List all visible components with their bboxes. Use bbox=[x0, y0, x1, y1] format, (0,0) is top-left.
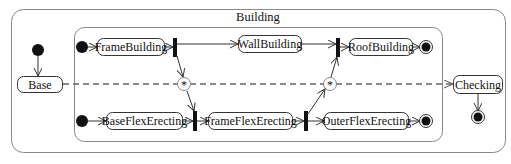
transition-sync-left-to-join bbox=[187, 91, 194, 111]
state-roof-building[interactable]: RoofBuilding bbox=[348, 39, 414, 56]
final-state-bottom[interactable] bbox=[420, 115, 433, 128]
state-frame-building[interactable]: FrameBuilding bbox=[95, 39, 168, 56]
join-bar-1[interactable] bbox=[336, 38, 340, 57]
transition-fork-to-sync-right bbox=[308, 89, 325, 114]
transition-fork-to-sync-left bbox=[177, 56, 183, 77]
initial-state-outer[interactable] bbox=[32, 44, 44, 56]
final-state-top[interactable] bbox=[420, 41, 433, 54]
sync-state-left[interactable]: * bbox=[178, 78, 191, 93]
state-frame-flex-erecting-label: FrameFlexErecting bbox=[204, 114, 297, 128]
sync-state-right[interactable]: * bbox=[324, 78, 337, 93]
initial-state-top[interactable] bbox=[76, 41, 88, 53]
state-diagram: Building Base FrameBuilding WallBuilding… bbox=[0, 0, 511, 164]
state-checking-label: Checking bbox=[455, 78, 501, 92]
state-frame-flex-erecting[interactable]: FrameFlexErecting bbox=[204, 113, 297, 130]
building-title: Building bbox=[236, 10, 281, 24]
state-outer-flex-erecting-label: OuterFlexErecting bbox=[322, 114, 411, 128]
state-checking[interactable]: Checking bbox=[454, 76, 503, 94]
state-frame-building-label: FrameBuilding bbox=[95, 40, 168, 54]
state-base-flex-erecting-label: BaseFlexErecting bbox=[102, 114, 187, 128]
state-outer-flex-erecting[interactable]: OuterFlexErecting bbox=[322, 113, 411, 130]
fork-bar-2[interactable] bbox=[304, 111, 308, 131]
state-roof-building-label: RoofBuilding bbox=[348, 40, 414, 54]
join-bar-2[interactable] bbox=[193, 111, 197, 131]
initial-state-bottom[interactable] bbox=[76, 115, 88, 127]
building-container-border bbox=[12, 10, 506, 153]
final-state-checking[interactable] bbox=[472, 111, 485, 124]
state-base[interactable]: Base bbox=[18, 77, 63, 93]
building-composite-state[interactable]: Building bbox=[12, 10, 506, 153]
state-base-label: Base bbox=[28, 78, 51, 92]
sync-right-label: * bbox=[327, 78, 333, 92]
sync-left-label: * bbox=[181, 78, 187, 92]
state-base-flex-erecting[interactable]: BaseFlexErecting bbox=[102, 113, 187, 130]
state-wall-building-label: WallBuilding bbox=[238, 37, 302, 51]
fork-bar-1[interactable] bbox=[173, 38, 177, 57]
transition-sync-right-to-join bbox=[331, 57, 337, 77]
state-wall-building[interactable]: WallBuilding bbox=[238, 36, 302, 53]
